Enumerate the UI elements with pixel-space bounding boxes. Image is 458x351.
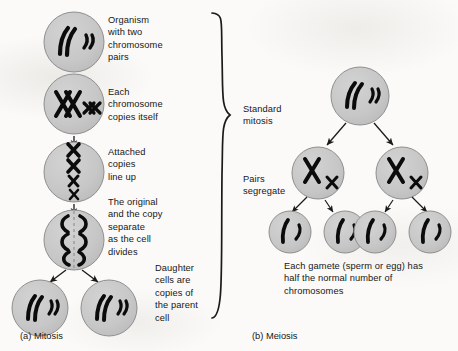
mitosis-step-label-daughter-cells: Daughter cells are copies of the parent … xyxy=(155,262,198,324)
mitosis-step-label-organism: Organism with two chromosome pairs xyxy=(108,14,163,64)
mitosis-step-label-replication: Each chromosome copies itself xyxy=(108,86,163,123)
panel-caption-meiosis: (b) Meiosis xyxy=(252,330,297,342)
panel-caption-mitosis: (a) Mitosis xyxy=(20,330,63,342)
figure-root: Organism with two chromosome pairs Each … xyxy=(0,0,458,351)
mitosis-step-label-anaphase: The original and the copy separate as th… xyxy=(108,196,162,258)
label-layer: Organism with two chromosome pairs Each … xyxy=(0,0,458,351)
mitosis-step-label-metaphase: Attached copies line up xyxy=(108,146,146,183)
meiosis-step-label-gametes: Each gamete (sperm or egg) has half the … xyxy=(284,260,423,297)
meiosis-step-label-standard-mitosis: Standard mitosis xyxy=(243,103,282,128)
meiosis-step-label-pairs-segregate: Pairs segregate xyxy=(243,173,285,198)
